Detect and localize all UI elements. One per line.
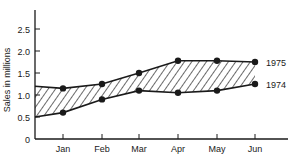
data-point (136, 87, 142, 93)
x-tick-label: Jan (56, 144, 71, 154)
data-point (214, 57, 220, 63)
y-tick-label: 0 (25, 135, 30, 145)
data-point (99, 81, 105, 87)
series-label-1975: 1975 (266, 58, 286, 68)
data-point (252, 59, 258, 65)
data-point (99, 96, 105, 102)
x-tick-label: Mar (131, 144, 147, 154)
y-axis-label: Sales in millions (2, 47, 12, 112)
x-tick-label: Jun (248, 144, 263, 154)
x-axis-ticks: JanFebMarAprMayJun (56, 134, 263, 154)
sales-comparison-chart: 00.51.01.52.02.5 JanFebMarAprMayJun 1975… (0, 0, 296, 163)
x-tick-label: Feb (94, 144, 110, 154)
data-point (136, 70, 142, 76)
data-point (175, 57, 181, 63)
series-label-1974: 1974 (266, 80, 286, 90)
y-tick-label: 2.0 (17, 47, 30, 57)
y-tick-label: 1.5 (17, 69, 30, 79)
y-tick-label: 2.5 (17, 25, 30, 35)
x-tick-label: May (208, 144, 226, 154)
data-point (60, 109, 66, 115)
x-tick-label: Apr (171, 144, 185, 154)
y-tick-label: 0.5 (17, 113, 30, 123)
data-point (175, 90, 181, 96)
data-point (60, 85, 66, 91)
hatched-difference-area (35, 61, 255, 117)
y-tick-label: 1.0 (17, 91, 30, 101)
series-labels: 19751974 (266, 58, 286, 90)
data-point (252, 81, 258, 87)
data-point (214, 87, 220, 93)
y-axis-ticks: 00.51.01.52.02.5 (17, 25, 40, 145)
